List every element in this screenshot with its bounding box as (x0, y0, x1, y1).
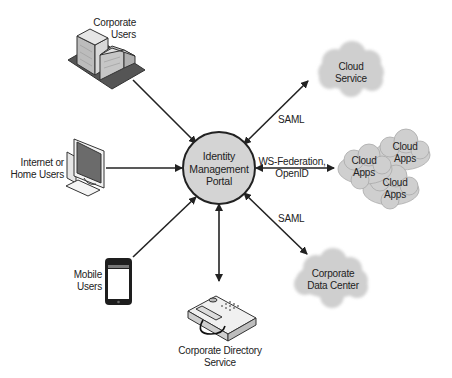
edge-cloud-service (244, 81, 308, 144)
home-users-label: Internet or Home Users (6, 157, 64, 181)
mobile-users-line-2: Users (60, 281, 102, 293)
saml-label-top: SAML (278, 114, 304, 126)
ws-federation-label: WS-Federation, (257, 156, 327, 168)
cloud-apps-1-line-1: Cloud (385, 141, 425, 153)
home-users-line-2: Home Users (6, 169, 64, 181)
data-center-line-1: Corporate (300, 268, 366, 280)
telephone-icon (188, 296, 256, 341)
cloud-apps-label-2: Cloud Apps (344, 155, 384, 179)
edge-label-ws-federation: WS-Federation, OpenID (257, 156, 327, 180)
cloud-service-label: Cloud Service (326, 61, 376, 85)
portal-label-line-3: Portal (183, 175, 255, 188)
edge-mobile-users (133, 197, 196, 257)
cloud-service-line-2: Service (326, 73, 376, 85)
corporate-users-line-1: Corporate (88, 17, 136, 29)
edge-corporate-users (133, 80, 196, 143)
directory-service-line-2: Service (168, 357, 272, 369)
cloud-apps-3-line-1: Cloud (375, 177, 415, 189)
mobile-users-line-1: Mobile (60, 269, 102, 281)
openid-label: OpenID (257, 168, 327, 180)
data-center-line-2: Data Center (300, 280, 366, 292)
saml-label-bottom: SAML (278, 213, 304, 225)
identity-management-diagram: Identity Management Portal Corporate Use… (0, 0, 452, 378)
corporate-users-line-2: Users (88, 29, 136, 41)
corporate-users-label: Corporate Users (88, 17, 136, 41)
edge-label-saml-cloud-service: SAML (278, 114, 304, 126)
cloud-apps-3-line-2: Apps (375, 189, 415, 201)
mobile-users-label: Mobile Users (60, 269, 102, 293)
directory-service-line-1: Corporate Directory (168, 345, 272, 357)
smartphone-icon (105, 258, 132, 305)
portal-label-line-1: Identity (183, 150, 255, 163)
identity-portal-label: Identity Management Portal (183, 150, 255, 188)
cloud-apps-label-3: Cloud Apps (375, 177, 415, 201)
data-center-label: Corporate Data Center (300, 268, 366, 292)
cloud-apps-2-line-1: Cloud (344, 155, 384, 167)
cloud-apps-1-line-2: Apps (385, 153, 425, 165)
cloud-service-line-1: Cloud (326, 61, 376, 73)
cloud-apps-label-1: Cloud Apps (385, 141, 425, 165)
desktop-computer-icon (66, 139, 104, 196)
home-users-line-1: Internet or (6, 157, 64, 169)
portal-label-line-2: Management (183, 163, 255, 176)
edge-label-saml-data-center: SAML (278, 213, 304, 225)
directory-service-label: Corporate Directory Service (168, 345, 272, 369)
